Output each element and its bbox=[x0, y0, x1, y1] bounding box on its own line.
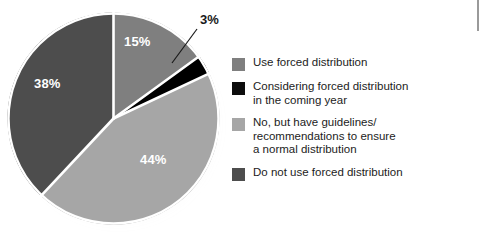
slice-value-label-guidelines: 44% bbox=[140, 152, 167, 167]
legend-swatch-icon bbox=[232, 58, 245, 71]
legend-swatch-icon bbox=[232, 168, 245, 181]
pie-chart-figure: 15% 38% 44% 3% Use forced distribution C… bbox=[0, 0, 485, 245]
legend-item-label: Considering forced distribution in the c… bbox=[253, 80, 408, 107]
legend-item-label: Use forced distribution bbox=[253, 56, 367, 70]
pie-chart bbox=[7, 12, 220, 225]
legend-swatch-icon bbox=[232, 82, 245, 95]
pie-svg bbox=[7, 12, 220, 225]
chart-legend: Use forced distribution Considering forc… bbox=[232, 56, 472, 190]
slice-value-label-do-not-use: 38% bbox=[34, 76, 61, 91]
legend-item-label: Do not use forced distribution bbox=[253, 166, 403, 180]
legend-item-guidelines[interactable]: No, but have guidelines/ recommendations… bbox=[232, 116, 472, 157]
slice-value-label-considering: 3% bbox=[200, 12, 219, 27]
legend-swatch-icon bbox=[232, 118, 245, 131]
slice-value-label-use-forced: 15% bbox=[124, 34, 151, 49]
page-scan-edge bbox=[477, 0, 479, 31]
legend-item-considering[interactable]: Considering forced distribution in the c… bbox=[232, 80, 472, 107]
legend-item-use-forced[interactable]: Use forced distribution bbox=[232, 56, 472, 71]
legend-item-label: No, but have guidelines/ recommendations… bbox=[253, 116, 396, 157]
legend-item-do-not-use[interactable]: Do not use forced distribution bbox=[232, 166, 472, 181]
